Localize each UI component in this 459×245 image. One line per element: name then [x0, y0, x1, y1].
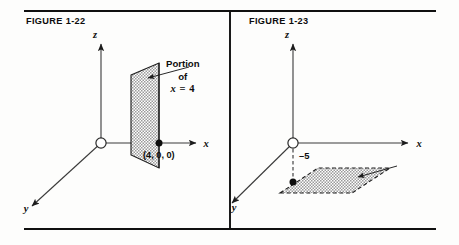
plane-z-equals-minus-5: [280, 168, 390, 193]
z-axis-label: z: [284, 29, 290, 40]
callout-equation: x = 4: [166, 83, 200, 96]
point-4-0-0-marker: [156, 140, 163, 147]
point-0-0-minus5-marker: [290, 179, 297, 186]
callout-portion-x-4: Portion of x = 4: [166, 58, 200, 96]
y-axis-label: y: [230, 202, 237, 213]
point-coordinate-label: (4, 0, 0): [143, 150, 175, 160]
figure-1-22-diagram: z x y (4, 0, 0): [0, 0, 229, 245]
x-axis-label: x: [202, 138, 208, 149]
callout-value: 4: [189, 83, 195, 94]
figure-page: FIGURE 1-22 FIGURE 1-23: [0, 0, 459, 245]
x-axis-label: x: [415, 138, 421, 149]
y-axis-label: y: [22, 203, 29, 214]
z-tick-label-minus-5: –5: [299, 150, 309, 161]
callout-line-of: of: [166, 71, 200, 84]
figure-1-22-panel: z x y (4, 0, 0) Portion of x = 4: [0, 0, 229, 245]
origin-marker: [96, 138, 106, 148]
z-axis-label: z: [92, 29, 98, 40]
y-axis-line: [232, 143, 293, 203]
callout-variable: x: [170, 83, 176, 94]
y-axis-line: [32, 143, 101, 206]
figure-1-23-diagram: z x y –5: [230, 0, 459, 245]
figure-1-23-panel: z x y –5 Portion of z = –5: [230, 0, 459, 245]
callout-line-portion: Portion: [166, 58, 200, 71]
callout-operator: =: [179, 83, 186, 94]
origin-marker: [288, 138, 298, 148]
